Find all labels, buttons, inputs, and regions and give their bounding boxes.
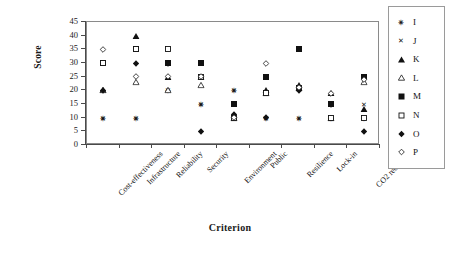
x-axis-tick [184,144,185,148]
x-axis-category-label: Security [206,150,231,175]
data-point-j: ✕ [230,87,237,94]
legend-item-i[interactable]: ✳I [389,13,444,31]
data-points-layer: ✳✳✳✳✳✳✳✳✳✕✕✕✕✕✕✕✕✕ [87,22,378,143]
y-axis-tick-label: 45 [64,17,78,26]
data-point-n [263,90,270,97]
legend-item-k[interactable]: K [389,50,444,68]
data-point-j: ✕ [197,101,204,108]
data-point-n [165,46,172,53]
data-point-p [328,90,335,97]
data-point-o [263,114,270,121]
legend-marker [389,69,413,87]
y-axis-tick-label: 20 [64,85,78,94]
y-axis-tick [81,76,86,77]
data-point-m [295,46,302,53]
marker-triangle-open-icon [398,74,405,81]
legend-item-m[interactable]: M [389,87,444,105]
data-point-m [263,73,270,80]
legend-item-n[interactable]: N [389,106,444,124]
legend-label: O [413,129,420,139]
legend-marker: ✳ [389,13,413,31]
y-axis-tick-label: 0 [64,140,78,149]
legend: ✳I✕JKLMNOP [388,6,445,169]
data-point-p [132,73,139,80]
x-axis-tick [86,144,87,148]
marker-diamond-open-icon [398,149,405,156]
data-point-o [100,87,107,94]
data-point-j: ✕ [132,114,139,121]
marker-cross-icon: ✕ [398,37,405,44]
marker-diamond-filled-icon [398,130,405,137]
data-point-l [197,81,204,88]
x-axis-tick [249,144,250,148]
data-point-n [328,114,335,121]
y-axis-tick [81,48,86,49]
legend-label: K [413,54,420,64]
marker-square-filled-icon [398,93,405,100]
y-axis-line [85,21,86,145]
x-axis-tick [216,144,217,148]
legend-marker [389,125,413,143]
data-point-m [230,101,237,108]
y-axis-tick [81,117,86,118]
legend-label: P [413,147,418,157]
y-axis-tick [81,130,86,131]
y-axis-tick-label: 5 [64,126,78,135]
data-point-j: ✕ [295,114,302,121]
data-point-o [165,60,172,67]
x-axis-tick [119,144,120,148]
data-point-p [360,76,367,83]
y-axis-tick-label: 10 [64,112,78,121]
legend-label: N [413,110,420,120]
data-point-o [132,60,139,67]
data-point-p [197,73,204,80]
legend-marker [389,87,413,105]
legend-label: I [413,17,416,27]
x-axis-category-label: Lock-in [336,150,360,174]
x-axis-title: Criterion [150,222,310,233]
y-axis-tick [81,62,86,63]
marker-triangle-filled-icon [398,56,405,63]
legend-item-j[interactable]: ✕J [389,32,444,50]
data-point-p [165,73,172,80]
legend-item-o[interactable]: O [389,125,444,143]
data-point-j: ✕ [100,114,107,121]
y-axis-tick [81,21,86,22]
y-axis-tick-label: 25 [64,71,78,80]
x-axis-line [85,144,380,145]
legend-item-p[interactable]: P [389,143,444,161]
x-axis-tick [151,144,152,148]
data-point-p [295,84,302,91]
y-axis-tick-label: 30 [64,58,78,67]
x-axis-tick [314,144,315,148]
y-axis-tick-label: 40 [64,30,78,39]
y-axis-tick-label: 35 [64,44,78,53]
x-axis-tick [379,144,380,148]
x-axis-tick [281,144,282,148]
legend-label: J [413,36,417,46]
data-point-p [100,46,107,53]
y-axis-tick-label: 15 [64,99,78,108]
data-point-l [165,87,172,94]
legend-label: L [413,73,419,83]
legend-marker [389,106,413,124]
legend-label: M [413,91,421,101]
marker-square-open-icon [398,112,405,119]
scatter-chart-figure: ✳✳✳✳✳✳✳✳✳✕✕✕✕✕✕✕✕✕ 051015202530354045 Co… [0,0,451,254]
x-axis-category-label: Resilience [305,150,334,179]
data-point-o [197,128,204,135]
x-axis-tick [346,144,347,148]
data-point-n [100,60,107,67]
data-point-n [360,114,367,121]
legend-item-l[interactable]: L [389,69,444,87]
y-axis-tick [81,35,86,36]
data-point-o [328,101,335,108]
plot-area: ✳✳✳✳✳✳✳✳✳✕✕✕✕✕✕✕✕✕ [86,21,379,144]
legend-marker [389,143,413,161]
data-point-n [132,46,139,53]
marker-asterisk-icon: ✳ [398,19,405,26]
data-point-k [360,106,367,113]
data-point-p [263,60,270,67]
legend-marker [389,50,413,68]
data-point-k [132,32,139,39]
